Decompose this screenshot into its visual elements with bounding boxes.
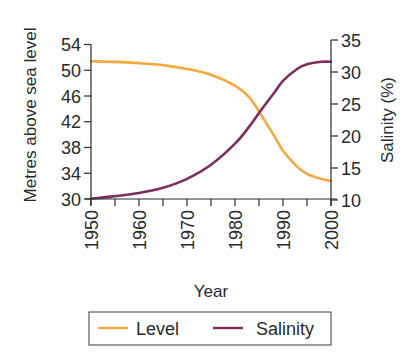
right-y-tick-label: 10 (341, 191, 361, 211)
legend: Level Salinity (89, 312, 331, 345)
x-axis-ticks: 195019601970198019902000 (82, 199, 342, 250)
plot-area (91, 61, 331, 198)
left-y-tick-label: 46 (61, 87, 81, 107)
x-tick-label: 1950 (82, 210, 102, 250)
left-y-tick-label: 34 (61, 164, 81, 184)
x-tick-label: 1990 (274, 210, 294, 250)
right-y-tick-label: 25 (341, 95, 361, 115)
right-y-axis-title: Salinity (%) (378, 77, 397, 163)
series-line-salinity (91, 62, 331, 199)
left-y-tick-label: 42 (61, 112, 81, 132)
right-y-tick-label: 20 (341, 127, 361, 147)
right-y-tick-label: 35 (341, 31, 361, 51)
x-tick-label: 1970 (178, 210, 198, 250)
x-tick-label: 1960 (130, 210, 150, 250)
dual-axis-line-chart: 30343842465054 101520253035 195019601970… (0, 0, 412, 360)
x-tick-label: 1980 (226, 210, 246, 250)
right-y-tick-label: 30 (341, 63, 361, 83)
series-line-level (91, 61, 331, 181)
left-y-axis-title: Metres above sea level (21, 28, 40, 203)
left-y-tick-label: 54 (61, 35, 81, 55)
legend-label-salinity: Salinity (256, 319, 314, 339)
right-y-axis-ticks: 101520253035 (331, 31, 361, 211)
left-y-tick-label: 38 (61, 138, 81, 158)
left-y-tick-label: 30 (61, 190, 81, 210)
x-axis-title: Year (194, 282, 229, 301)
left-y-tick-label: 50 (61, 61, 81, 81)
x-tick-label: 2000 (322, 210, 342, 250)
legend-label-level: Level (136, 319, 179, 339)
left-y-axis-ticks: 30343842465054 (61, 35, 91, 210)
right-y-tick-label: 15 (341, 159, 361, 179)
